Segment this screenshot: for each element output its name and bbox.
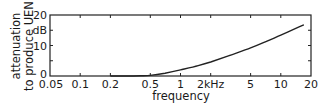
y-axis-title-line1: attenuation: [9, 13, 23, 80]
attenuation-curve: [110, 25, 304, 76]
x-tick-label: 0.2: [102, 78, 120, 91]
y-axis-title: attenuation to produce UEN: [9, 1, 36, 91]
y-tick-label: 20: [33, 9, 47, 22]
x-axis-title: frequency: [152, 89, 210, 103]
x-tick-label: 5: [247, 78, 254, 91]
plot-frame: [50, 15, 311, 76]
x-tick-label: 10: [274, 78, 288, 91]
x-tick-label: 0.1: [71, 78, 89, 91]
x-tick-label: 0.05: [39, 78, 64, 91]
axis-ticks: [50, 15, 311, 76]
y-tick-label: dB: [32, 24, 47, 37]
x-tick-label: 20: [304, 78, 318, 91]
y-tick-label: 10: [33, 40, 47, 53]
attenuation-frequency-chart: attenuation to produce UEN 010dB20 0.050…: [0, 0, 325, 106]
